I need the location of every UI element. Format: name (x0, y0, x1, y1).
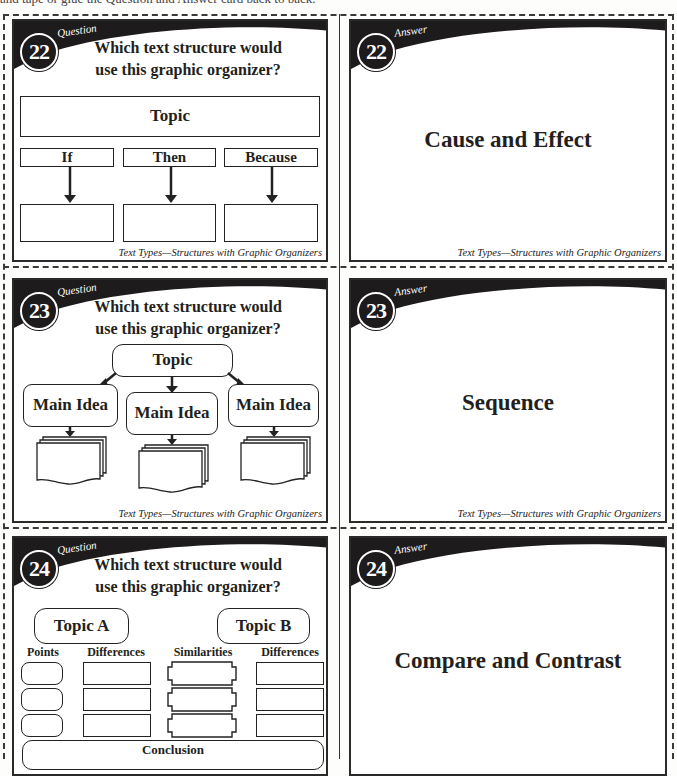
card-number-badge: 23 (357, 292, 395, 330)
answer-text: Sequence (351, 390, 665, 416)
card-number-badge: 24 (357, 550, 395, 588)
card-footer: Text Types—Structures with Graphic Organ… (119, 247, 322, 258)
instruction-text: and tape or glue the Question and Answer… (0, 0, 677, 7)
organizer-because-result-box (224, 204, 318, 242)
differences-b-box-1 (256, 662, 324, 685)
fold-line-center (339, 14, 340, 759)
conclusion-label: Conclusion (142, 742, 204, 757)
differences-b-box-3 (256, 714, 324, 737)
differences-b-box-2 (256, 688, 324, 711)
cut-line-right (672, 14, 674, 759)
question-card-24: 24 Question Which text structure would u… (12, 536, 328, 776)
answer-card-23: 23 Answer Sequence Text Types—Structures… (349, 278, 667, 523)
answer-text: Compare and Contrast (351, 648, 665, 674)
cut-line-row1 (3, 266, 674, 268)
question-card-23: 23 Question Which text structure would u… (12, 278, 328, 523)
answer-card-22: 22 Answer Cause and Effect Text Types—St… (349, 19, 667, 262)
question-card-22: 22 Question Which text structure would u… (12, 19, 328, 262)
organizer-then-result-box (123, 204, 216, 242)
card-number-badge: 22 (357, 33, 395, 71)
card-footer: Text Types—Structures with Graphic Organ… (458, 508, 661, 519)
card-footer: Text Types—Structures with Graphic Organ… (458, 247, 661, 258)
document-stack-icon (14, 280, 328, 523)
cut-line-left (3, 14, 5, 759)
organizer-if-result-box (20, 204, 114, 242)
cut-line-row2 (3, 527, 674, 529)
conclusion-box: Conclusion (22, 740, 324, 770)
card-footer: Text Types—Structures with Graphic Organ… (119, 508, 322, 519)
answer-text: Cause and Effect (351, 127, 665, 153)
answer-card-24: 24 Answer Compare and Contrast (349, 536, 667, 776)
